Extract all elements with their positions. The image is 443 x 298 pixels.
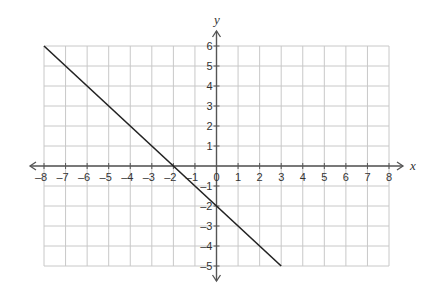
x-tick-label: 7 bbox=[364, 171, 370, 183]
plotted-line bbox=[44, 46, 281, 266]
y-tick-label: 2 bbox=[206, 120, 212, 132]
y-tick-label: 4 bbox=[206, 80, 212, 92]
x-tick-label: –2 bbox=[164, 171, 176, 183]
x-tick-label: –1 bbox=[186, 171, 198, 183]
x-tick-label: 5 bbox=[321, 171, 327, 183]
y-tick-label: 5 bbox=[206, 60, 212, 72]
x-tick-label: 0 bbox=[213, 171, 219, 183]
y-tick-label: –2 bbox=[200, 200, 212, 212]
coordinate-plane: –8–7–6–5–4–3–2–1012345678654321–1–2–3–4–… bbox=[0, 0, 443, 298]
x-tick-label: 2 bbox=[257, 171, 263, 183]
x-tick-label: –3 bbox=[143, 171, 155, 183]
y-tick-label: –5 bbox=[200, 260, 212, 272]
x-tick-label: 8 bbox=[386, 171, 392, 183]
x-axis-label: x bbox=[409, 158, 416, 173]
x-tick-label: –8 bbox=[35, 171, 47, 183]
y-tick-label: –3 bbox=[200, 220, 212, 232]
y-tick-label: –4 bbox=[200, 240, 212, 252]
y-tick-label: 1 bbox=[206, 140, 212, 152]
x-tick-label: 6 bbox=[343, 171, 349, 183]
x-tick-label: 1 bbox=[235, 171, 241, 183]
x-tick-label: –7 bbox=[56, 171, 68, 183]
x-tick-label: –6 bbox=[78, 171, 90, 183]
y-tick-label: –1 bbox=[200, 180, 212, 192]
y-tick-label: 6 bbox=[206, 40, 212, 52]
y-tick-label: 3 bbox=[206, 100, 212, 112]
x-tick-label: –5 bbox=[100, 171, 112, 183]
line-series bbox=[44, 46, 281, 266]
tick-labels: –8–7–6–5–4–3–2–1012345678654321–1–2–3–4–… bbox=[35, 40, 392, 272]
x-tick-label: 4 bbox=[300, 171, 306, 183]
x-tick-label: –4 bbox=[121, 171, 133, 183]
x-tick-label: 3 bbox=[278, 171, 284, 183]
y-axis-label: y bbox=[212, 12, 220, 27]
axes bbox=[30, 31, 403, 281]
